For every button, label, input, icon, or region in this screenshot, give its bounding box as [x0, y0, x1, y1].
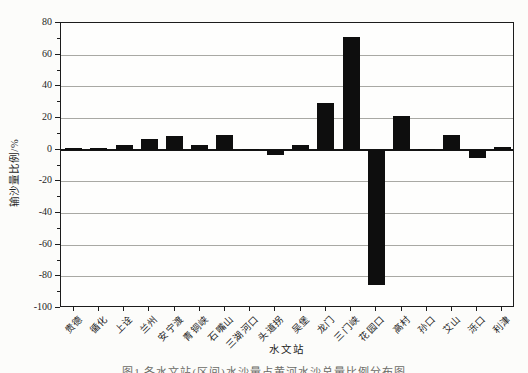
y-axis-tick	[55, 22, 60, 23]
bar-循化	[90, 148, 107, 150]
x-axis-tick	[98, 307, 99, 311]
y-axis-tick	[57, 133, 60, 134]
y-axis-tick-label: -100	[18, 302, 52, 312]
x-axis-tick	[350, 307, 351, 311]
y-axis-tick-label: 40	[18, 80, 52, 90]
bar-chart-figure: 806040200-20-40-60-80-100贵德循化上诠兰州安宁渡青铜峡石…	[0, 0, 528, 373]
y-axis-tick-label: -80	[18, 270, 52, 280]
y-axis-tick	[55, 212, 60, 213]
y-axis-tick	[57, 291, 60, 292]
x-axis-tick	[476, 307, 477, 311]
bar-三湖河口	[242, 149, 259, 151]
x-axis-tick	[123, 307, 124, 311]
y-axis-tick	[57, 228, 60, 229]
x-axis-tick	[224, 307, 225, 311]
y-axis-tick-label: 0	[18, 144, 52, 154]
y-axis-tick-label: -60	[18, 239, 52, 249]
y-axis-tick	[55, 149, 60, 150]
y-axis-tick-label: 20	[18, 112, 52, 122]
gridline	[61, 55, 513, 56]
y-axis-tick	[55, 275, 60, 276]
bar-花园口	[368, 150, 385, 285]
x-axis-tick	[249, 307, 250, 311]
bar-吴堡	[292, 145, 309, 150]
bar-石嘴山	[216, 135, 233, 150]
x-axis-tick	[451, 307, 452, 311]
gridline	[61, 276, 513, 277]
bar-高村	[393, 116, 410, 149]
gridline	[61, 213, 513, 214]
bar-艾山	[443, 135, 460, 150]
x-axis-tick	[401, 307, 402, 311]
bar-安宁渡	[166, 136, 183, 149]
gridline	[61, 118, 513, 119]
x-axis-tick	[148, 307, 149, 311]
x-axis-tick	[426, 307, 427, 311]
x-axis-title: 水文站	[60, 341, 514, 356]
bar-青铜峡	[191, 145, 208, 150]
y-axis-tick	[57, 101, 60, 102]
bar-兰州	[141, 139, 158, 150]
x-axis-tick	[300, 307, 301, 311]
y-axis-tick	[57, 196, 60, 197]
y-axis-tick-label: 60	[18, 49, 52, 59]
bar-三门峡	[343, 37, 360, 149]
y-axis-tick	[55, 244, 60, 245]
bar-利津	[494, 147, 511, 150]
x-axis-tick	[375, 307, 376, 311]
y-axis-tick-label: -40	[18, 207, 52, 217]
y-axis-tick	[55, 54, 60, 55]
y-axis-tick	[55, 307, 60, 308]
bar-孙口	[418, 149, 435, 151]
x-axis-tick	[501, 307, 502, 311]
y-axis-tick	[55, 85, 60, 86]
y-axis-tick	[57, 38, 60, 39]
gridline	[61, 86, 513, 87]
y-axis-tick	[57, 165, 60, 166]
bar-贵德	[65, 148, 82, 150]
x-axis-tick	[174, 307, 175, 311]
plot-area	[60, 22, 514, 307]
x-axis-tick	[274, 307, 275, 311]
bar-龙门	[317, 103, 334, 150]
x-axis-tick	[73, 307, 74, 311]
y-axis-tick	[55, 180, 60, 181]
y-axis-tick	[57, 260, 60, 261]
gridline	[61, 181, 513, 182]
bar-上诠	[116, 145, 133, 150]
x-axis-tick	[325, 307, 326, 311]
figure-caption-partial: 图1 各水文站(区间)水沙量占黄河水沙总量比例分布图	[0, 363, 528, 373]
y-axis-title: 输沙量比例/%	[6, 128, 21, 218]
gridline	[61, 245, 513, 246]
bar-泺口	[469, 150, 486, 159]
y-axis-tick-label: 80	[18, 17, 52, 27]
x-axis-tick	[199, 307, 200, 311]
y-axis-tick	[57, 70, 60, 71]
y-axis-tick	[55, 117, 60, 118]
bar-头道拐	[267, 150, 284, 156]
y-axis-tick-label: -20	[18, 175, 52, 185]
